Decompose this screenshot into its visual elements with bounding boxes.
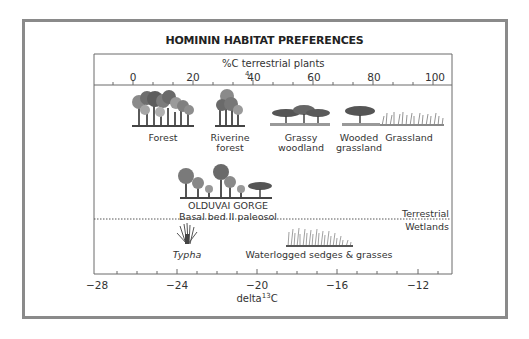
top-axis-ticks <box>113 80 433 85</box>
habitat-label-forest: Forest <box>148 133 177 143</box>
site-name: OLDUVAI GORGE <box>179 200 277 211</box>
bottom-tick-minus28: −28 <box>86 279 108 291</box>
bottom-axis-label: delta13C <box>236 292 277 304</box>
riverine-forest-icon <box>215 89 245 127</box>
mixed-trees-icon <box>178 164 272 199</box>
top-tick-20: 20 <box>186 71 199 83</box>
habitat-label-grassland: Grassland <box>385 133 433 143</box>
acacia-tree-icon <box>342 106 380 126</box>
forest-trees-icon <box>132 90 194 127</box>
bottom-tick-minus20: −20 <box>246 279 268 291</box>
top-tick-60: 60 <box>307 71 320 83</box>
grass-icon <box>380 112 444 126</box>
habitat-label-grassy-woodland: Grassy woodland <box>278 133 324 153</box>
habitat-label-wooded-grassland: Wooded grassland <box>336 133 382 153</box>
typha-label: Typha <box>173 250 201 260</box>
top-tick-100: 100 <box>425 71 445 83</box>
top-tick-80: 80 <box>367 71 380 83</box>
top-axis-label-text: %C terrestrial plants <box>222 58 325 69</box>
site-subtitle: Basal bed II paleosol <box>179 211 277 222</box>
top-tick-40: 40 <box>247 71 260 83</box>
typha-icon <box>177 223 197 244</box>
acacia-woodland-icon <box>270 105 330 126</box>
axes <box>94 54 452 274</box>
top-tick-0: 0 <box>130 71 137 83</box>
site-label: OLDUVAI GORGE Basal bed II paleosol <box>179 200 277 222</box>
habitat-label-riverine-forest: Riverine forest <box>210 133 249 153</box>
top-axis-label: %C terrestrial plants <box>222 58 325 69</box>
wetlands-label: Wetlands <box>405 221 449 232</box>
bottom-tick-minus16: −16 <box>326 279 348 291</box>
bottom-tick-minus12: −12 <box>407 279 429 291</box>
bottom-tick-minus24: −24 <box>166 279 188 291</box>
bottom-axis-ticks <box>117 269 438 274</box>
figure-title: HOMININ HABITAT PREFERENCES <box>0 34 529 47</box>
sedges-label: Waterlogged sedges & grasses <box>245 250 392 260</box>
terrestrial-label: Terrestrial <box>402 208 449 219</box>
sedges-icon <box>286 228 353 247</box>
